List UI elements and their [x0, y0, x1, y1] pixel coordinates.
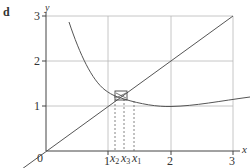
iterate-x3-label: x3: [121, 152, 130, 166]
y-tick-3: 3: [34, 10, 40, 22]
iterate-x1-label: x1: [132, 152, 141, 166]
iterate-x2-label: x2: [110, 152, 119, 166]
iteration-dashes: [115, 96, 134, 151]
curve-f: [69, 22, 250, 107]
y-tick-2: 2: [34, 55, 40, 67]
x-tick-3: 3: [229, 155, 235, 167]
x-tick-2: 2: [167, 155, 173, 167]
panel-label: d: [3, 6, 10, 18]
line-y-equals-x: [22, 16, 233, 168]
y-axis-label: y: [45, 3, 49, 13]
x-axis-label: x: [242, 144, 247, 155]
origin-label: 0: [37, 152, 43, 164]
y-tick-1: 1: [34, 100, 40, 112]
iteration-chart: [0, 0, 250, 168]
